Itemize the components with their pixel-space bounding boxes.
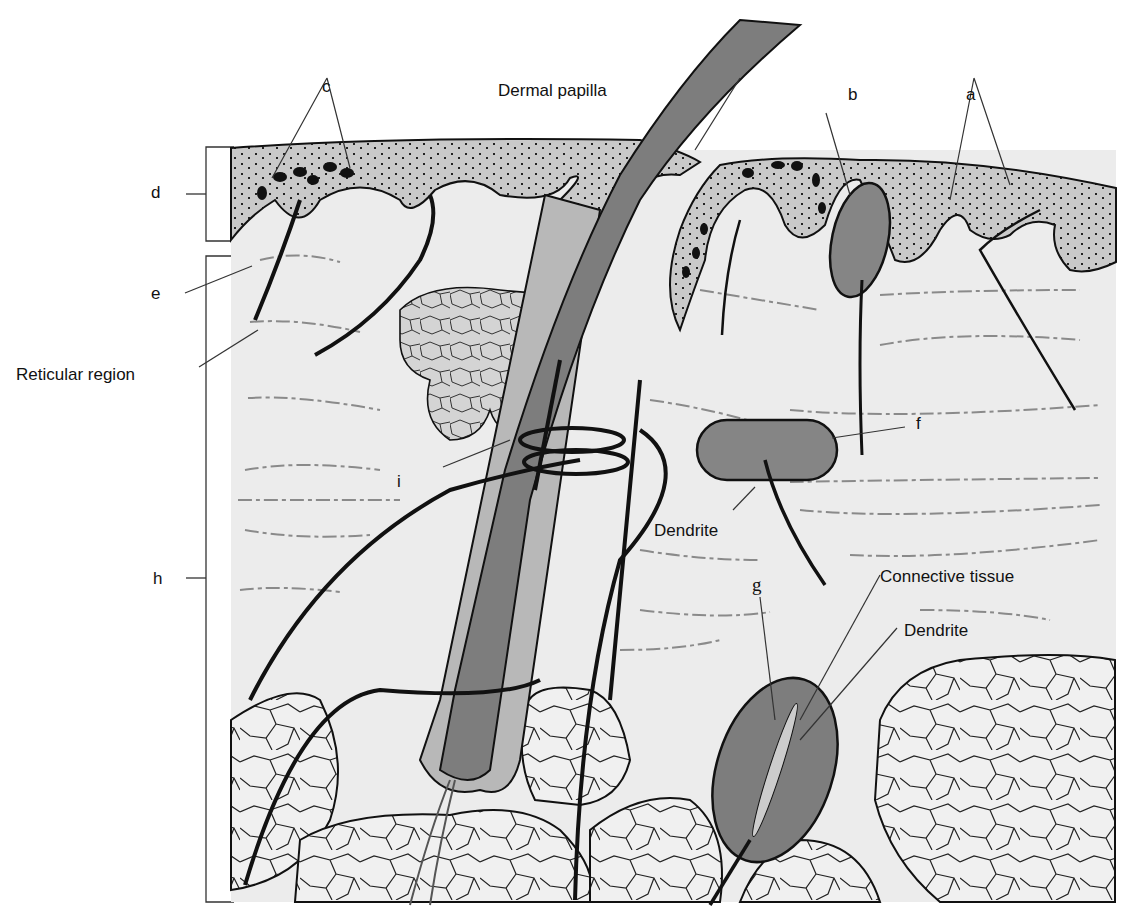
label-dendrite-upper: Dendrite bbox=[654, 522, 718, 539]
label-h: h bbox=[153, 570, 162, 587]
bracket-d bbox=[186, 147, 234, 241]
label-d: d bbox=[151, 184, 160, 201]
label-i: i bbox=[397, 473, 401, 490]
label-a: a bbox=[966, 86, 975, 103]
label-e: e bbox=[151, 285, 160, 302]
label-connective-tissue: Connective tissue bbox=[880, 568, 1014, 585]
label-b: b bbox=[848, 86, 857, 103]
label-c: c bbox=[322, 78, 331, 95]
label-f: f bbox=[916, 415, 921, 432]
skin-receptor-diagram bbox=[0, 0, 1127, 919]
bracket-h bbox=[186, 256, 234, 902]
label-reticular-region: Reticular region bbox=[16, 366, 135, 383]
label-dendrite-lower: Dendrite bbox=[904, 622, 968, 639]
label-dermal-papilla: Dermal papilla bbox=[498, 82, 607, 99]
label-g: g bbox=[752, 575, 762, 594]
